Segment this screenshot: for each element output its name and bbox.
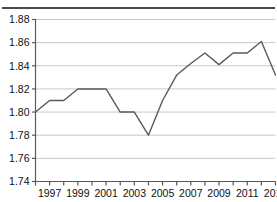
- truncated-header: [0, 0, 277, 11]
- header-divider: [2, 7, 275, 9]
- x-tick-label: 2005: [151, 187, 175, 199]
- y-tick-labels-group: 1.741.761.781.801.821.841.861.88: [9, 13, 30, 187]
- line-chart-plot: 1.741.761.781.801.821.841.861.88 1997199…: [0, 11, 277, 202]
- y-tick-label: 1.80: [9, 106, 30, 118]
- x-axis-group: [36, 182, 276, 186]
- y-tick-label: 1.82: [9, 83, 30, 95]
- y-tick-label: 1.74: [9, 175, 30, 187]
- data-line-group: [36, 41, 276, 135]
- y-tick-label: 1.86: [9, 36, 30, 48]
- x-tick-labels-group: 199719992001200320052007200920112013: [38, 187, 277, 199]
- x-tick-label: 2001: [94, 187, 118, 199]
- x-tick-label: 2011: [236, 187, 259, 199]
- y-tick-label: 1.78: [9, 129, 30, 141]
- x-tick-label: 2013: [264, 187, 277, 199]
- y-tick-label: 1.84: [9, 60, 30, 72]
- y-tick-label: 1.88: [9, 13, 30, 25]
- data-line: [36, 41, 276, 135]
- chart-figure: 1.741.761.781.801.821.841.861.88 1997199…: [0, 0, 277, 202]
- x-tick-label: 1997: [38, 187, 62, 199]
- x-tick-label: 1999: [66, 187, 90, 199]
- gridlines-group: [36, 20, 276, 182]
- x-tick-label: 2003: [123, 187, 147, 199]
- y-axis-group: [32, 19, 36, 182]
- x-tick-label: 2009: [207, 187, 231, 199]
- x-tick-label: 2007: [179, 187, 203, 199]
- y-tick-label: 1.76: [9, 152, 30, 164]
